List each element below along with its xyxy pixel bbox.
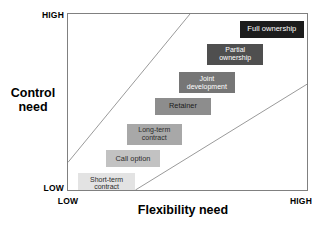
x-axis-low-tick-label: LOW <box>55 196 81 206</box>
option-box-call-option[interactable]: Call option <box>106 150 160 167</box>
y-axis-title: Control need <box>2 86 64 115</box>
y-axis-high-tick-label: HIGH <box>38 10 64 20</box>
plot-area: Full ownership Partial ownership Joint d… <box>67 13 308 191</box>
x-axis-high-tick-label: HIGH <box>286 196 316 206</box>
option-box-long-term-contract[interactable]: Long-term contract <box>127 124 182 145</box>
figure-canvas: HIGH Control need LOW Full ownership Par… <box>0 0 323 225</box>
y-axis-low-tick-label: LOW <box>38 183 64 193</box>
option-box-full-ownership[interactable]: Full ownership <box>240 21 305 38</box>
option-box-retainer[interactable]: Retainer <box>155 98 210 115</box>
option-box-joint-development[interactable]: Joint development <box>179 72 234 93</box>
option-box-short-term-contract[interactable]: Short-term contract <box>78 173 136 191</box>
option-box-partial-ownership[interactable]: Partial ownership <box>207 44 264 65</box>
x-axis-title: Flexibility need <box>118 203 248 217</box>
